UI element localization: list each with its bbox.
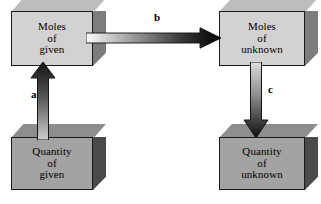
box-moles-given-line-3: given (40, 44, 65, 56)
box-moles-unknown: Moles of unknown (219, 11, 305, 66)
diagram-canvas: a b (0, 0, 321, 204)
box-moles-unknown-front-face: Moles of unknown (219, 11, 305, 66)
arrow-b (86, 27, 222, 49)
box-quantity-given: Quantity of given (11, 137, 93, 190)
arrow-a (30, 62, 56, 140)
box-moles-given-line-1: Moles (38, 21, 66, 33)
arrow-c (243, 62, 269, 138)
box-quantity-unknown-side-face (305, 137, 318, 190)
box-quantity-given-line-3: given (40, 169, 65, 181)
box-quantity-unknown: Quantity of unknown (219, 137, 305, 190)
box-quantity-unknown-line-3: unknown (241, 169, 283, 181)
box-moles-unknown-line-3: unknown (241, 44, 283, 56)
box-quantity-unknown-line-1: Quantity (242, 146, 281, 158)
arrow-b-label: b (154, 12, 160, 23)
box-moles-unknown-line-1: Moles (248, 21, 276, 33)
box-moles-given-front-face: Moles of given (11, 11, 93, 66)
arrow-c-label: c (268, 84, 273, 95)
box-quantity-given-line-1: Quantity (32, 146, 71, 158)
box-quantity-given-top-face (11, 124, 106, 138)
arrow-a-label: a (31, 89, 37, 100)
box-moles-given: Moles of given (11, 11, 93, 66)
box-quantity-unknown-front-face: Quantity of unknown (219, 137, 305, 190)
box-quantity-given-front-face: Quantity of given (11, 137, 93, 190)
box-moles-unknown-side-face (305, 11, 318, 66)
box-quantity-given-side-face (93, 137, 106, 190)
